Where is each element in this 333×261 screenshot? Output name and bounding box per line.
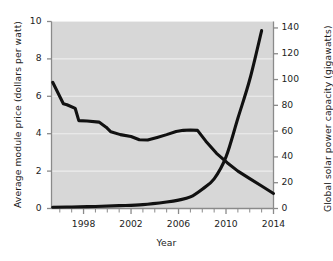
solar-price-production-chart: Average module price (dollars per watt) … [0,0,333,261]
plot-area [0,0,333,261]
